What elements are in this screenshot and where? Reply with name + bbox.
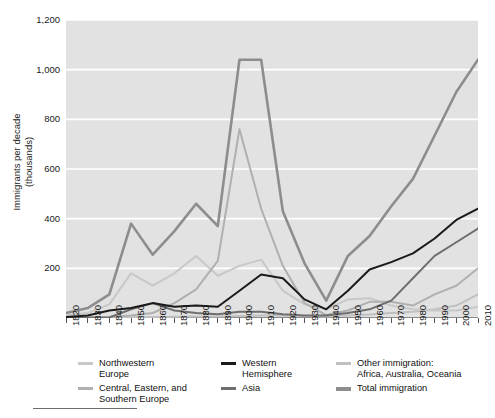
chart-legend: NorthwesternEuropeCentral, Eastern, andS… <box>66 358 486 404</box>
x-tick-label: 1910 <box>265 305 276 326</box>
legend-label-line1: Asia <box>242 383 260 394</box>
legend-item[interactable]: Other immigration:Africa, Australia, Oce… <box>336 358 495 379</box>
legend-label-line1: Northwestern <box>99 358 154 369</box>
x-tick-mark <box>87 318 88 323</box>
legend-column-3: Other immigration:Africa, Australia, Oce… <box>336 358 495 398</box>
legend-swatch-icon <box>78 362 93 365</box>
legend-label-line2: Hemisphere <box>242 369 292 380</box>
x-tick-label: 1970 <box>395 305 406 326</box>
x-tick-mark <box>478 318 479 323</box>
x-tick-label: 1900 <box>243 305 254 326</box>
x-tick-mark <box>434 318 435 323</box>
x-tick-label: 1850 <box>135 305 146 326</box>
x-tick-label: 1940 <box>330 305 341 326</box>
legend-label: Central, Eastern, andSouthern Europe <box>99 383 187 404</box>
legend-item[interactable]: Asia <box>221 383 331 394</box>
legend-label: WesternHemisphere <box>242 358 292 379</box>
x-tick-label: 1840 <box>113 305 124 326</box>
x-tick-mark <box>369 318 370 323</box>
legend-swatch-icon <box>336 362 351 365</box>
x-tick-mark <box>282 318 283 323</box>
legend-item[interactable]: WesternHemisphere <box>221 358 331 379</box>
x-tick-mark <box>347 318 348 323</box>
legend-label: Other immigration:Africa, Australia, Oce… <box>357 358 461 379</box>
x-tick-mark <box>261 318 262 323</box>
x-tick-mark <box>326 318 327 323</box>
legend-label-line1: Western <box>242 358 292 369</box>
legend-swatch-icon <box>221 387 236 390</box>
legend-label-line1: Other immigration: <box>357 358 461 369</box>
x-tick-label: 1920 <box>287 305 298 326</box>
legend-label-line2: Europe <box>99 369 154 380</box>
x-tick-mark <box>412 318 413 323</box>
legend-swatch-icon <box>78 387 93 390</box>
legend-swatch-icon <box>336 387 351 391</box>
legend-item[interactable]: Total immigration <box>336 383 495 394</box>
x-tick-mark <box>391 318 392 323</box>
legend-label: Asia <box>242 383 260 394</box>
legend-label: NorthwesternEurope <box>99 358 154 379</box>
x-tick-label: 1880 <box>200 305 211 326</box>
legend-label-line1: Total immigration <box>357 383 427 394</box>
x-tick-label: 1960 <box>374 305 385 326</box>
x-tick-mark <box>239 318 240 323</box>
x-tick-label: 1830 <box>92 305 103 326</box>
x-tick-label: 1980 <box>417 305 428 326</box>
immigration-chart-figure: Immigrants per decade (thousands) 1,2001… <box>0 0 495 418</box>
x-tick-label: 1820 <box>70 305 81 326</box>
legend-label-line2: Africa, Australia, Oceania <box>357 369 461 380</box>
x-tick-mark <box>109 318 110 323</box>
x-tick-mark <box>196 318 197 323</box>
x-tick-mark <box>217 318 218 323</box>
x-tick-label: 1990 <box>439 305 450 326</box>
footer-rule <box>33 408 137 409</box>
legend-item[interactable]: Central, Eastern, andSouthern Europe <box>78 383 228 404</box>
x-tick-mark <box>131 318 132 323</box>
legend-column-2: WesternHemisphereAsia <box>221 358 331 398</box>
x-tick-label: 1890 <box>222 305 233 326</box>
x-tick-mark <box>152 318 153 323</box>
x-tick-label: 2010 <box>482 305 493 326</box>
legend-label-line2: Southern Europe <box>99 394 187 405</box>
x-tick-label: 1950 <box>352 305 363 326</box>
x-tick-label: 1870 <box>178 305 189 326</box>
legend-label-line1: Central, Eastern, and <box>99 383 187 394</box>
legend-label: Total immigration <box>357 383 427 394</box>
x-tick-mark <box>456 318 457 323</box>
legend-swatch-icon <box>221 362 236 365</box>
x-tick-label: 1930 <box>309 305 320 326</box>
x-tick-mark <box>304 318 305 323</box>
x-tick-mark <box>66 318 67 323</box>
legend-column-1: NorthwesternEuropeCentral, Eastern, andS… <box>78 358 228 408</box>
x-tick-label: 1860 <box>157 305 168 326</box>
x-axis-tick-labels: 1820183018401850186018701880189019001910… <box>0 0 495 418</box>
x-tick-label: 2000 <box>460 305 471 326</box>
x-tick-mark <box>174 318 175 323</box>
legend-item[interactable]: NorthwesternEurope <box>78 358 228 379</box>
